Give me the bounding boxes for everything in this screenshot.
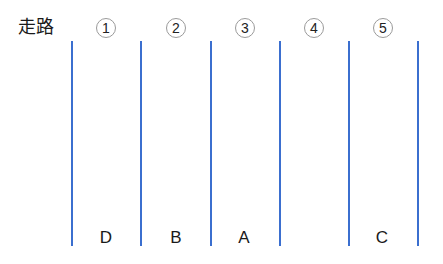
lane-number-1: 1 [96,18,116,38]
lane-divider-line [279,41,281,246]
diagram-title: 走路 [18,17,54,37]
lane-divider-line [210,41,212,246]
lane-divider-line [348,41,350,246]
lane-divider-line [140,41,142,246]
lane-number-3: 3 [235,18,255,38]
lane-occupant-5: C [367,228,397,248]
lane-occupant-1: D [91,228,121,248]
lane-occupant-2: B [161,228,191,248]
lane-number-4: 4 [304,18,324,38]
lane-divider-line [417,41,419,246]
lane-number-2: 2 [166,18,186,38]
lane-occupant-3: A [229,228,259,248]
lane-number-5: 5 [373,18,393,38]
lane-divider-line [71,41,73,246]
